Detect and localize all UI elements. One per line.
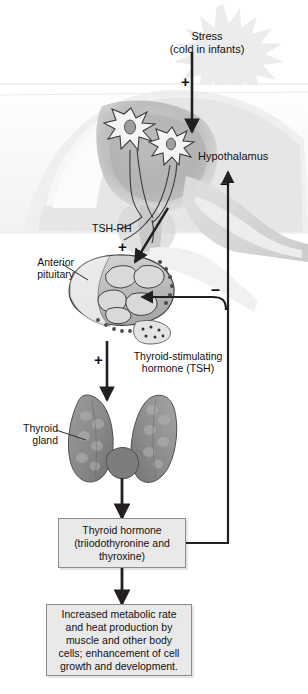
diagram-canvas: Stress (cold in infants) + Hypothalamus … [0, 0, 308, 694]
label-tsh: Thyroid-stimulating hormone (TSH) [118, 350, 238, 374]
box-thyroid-hormone-text: Thyroid hormone (triiodothyronine and th… [74, 524, 170, 563]
label-anterior-pituitary: Anterior pituitary [12, 256, 74, 280]
stress-label: Stress (cold in infants) [152, 30, 262, 56]
diagram-illustration [0, 0, 308, 694]
sign-tshrh-positive: + [118, 239, 127, 254]
sign-feedback-hypothalamus: – [220, 176, 229, 192]
thyroid-gland-illustration [68, 395, 176, 483]
sign-stress-positive: + [181, 74, 190, 89]
label-thyroid-gland: Thyroid gland [8, 422, 58, 446]
box-effects: Increased metabolic rate and heat produc… [46, 604, 192, 676]
label-hypothalamus: Hypothalamus [198, 150, 268, 162]
sign-tsh-positive: + [94, 352, 103, 367]
anterior-pituitary-illustration [69, 255, 174, 344]
label-tsh-rh: TSH-RH [92, 222, 132, 234]
sign-feedback-pituitary: – [211, 282, 220, 298]
box-effects-text: Increased metabolic rate and heat produc… [59, 608, 180, 673]
box-thyroid-hormone: Thyroid hormone (triiodothyronine and th… [58, 518, 186, 568]
